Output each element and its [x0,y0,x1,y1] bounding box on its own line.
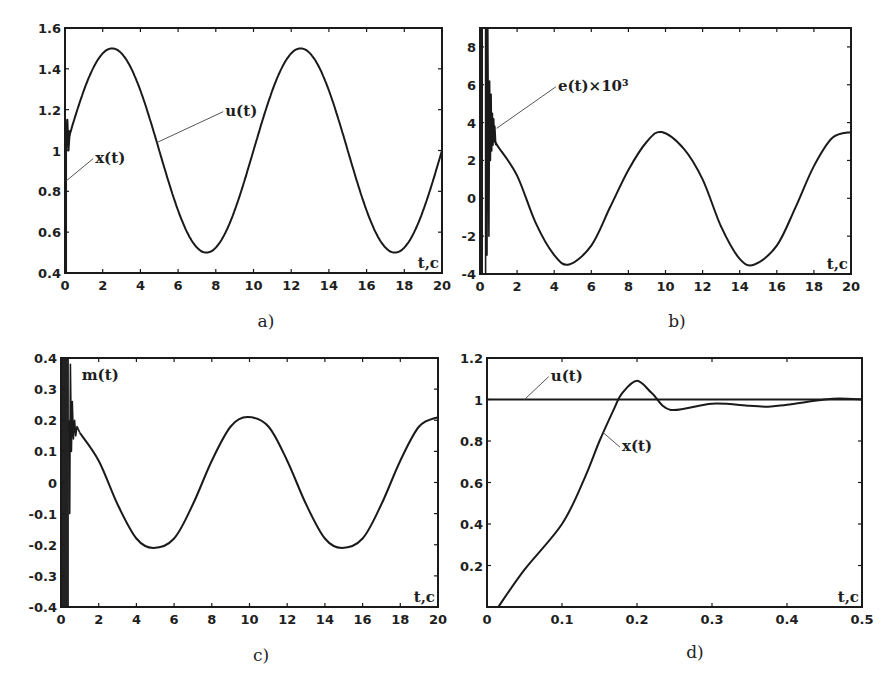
x-tick-label: 16 [768,279,786,294]
x-tick-label: 4 [132,612,141,627]
chart-c-svg: 02468101214161820-0.4-0.3-0.2-0.100.10.2… [0,340,447,686]
series-m-line [80,417,438,548]
annotation-label: e(t)×10³ [558,77,629,95]
x-tick-label: 20 [429,612,447,627]
y-tick-label: 1.2 [460,351,483,366]
x-tick-label: 14 [320,278,338,293]
chart-panel-a: 024681012141618200.40.60.811.21.41.6t,cu… [0,0,447,340]
plot-area [61,358,438,607]
x-tick-label: 4 [550,279,559,294]
y-tick-label: -0.1 [29,507,57,522]
x-tick-label: 2 [98,278,107,293]
x-tick-label: 2 [513,279,522,294]
plot-area [487,381,862,607]
x-tick-label: 10 [244,278,262,293]
y-tick-label: 1 [474,393,483,408]
y-tick-label: 0.4 [34,351,57,366]
chart-a-svg: 024681012141618200.40.60.811.21.41.6t,cu… [0,0,447,340]
x-tick-label: 6 [174,278,183,293]
x-tick-label: 10 [240,612,258,627]
chart-panel-c: 02468101214161820-0.4-0.3-0.2-0.100.10.2… [0,340,447,686]
x-tick-label: 12 [278,612,296,627]
annotation-label: u(t) [225,102,257,120]
x-tick-label: 0.3 [700,612,723,627]
x-tick-label: 0.4 [775,612,798,627]
x-tick-label: 10 [656,279,674,294]
x-tick-label: 8 [207,612,216,627]
caption-a: a) [246,311,286,331]
y-tick-label: 0.8 [460,434,483,449]
series-e-transient [481,28,496,274]
x-axis-label: t,c [838,588,859,606]
annotation-leader-line [66,159,93,182]
series-x-transient [66,120,70,273]
annotation-label: x(t) [95,149,125,167]
series-m-transient [69,364,80,513]
x-tick-label: 6 [170,612,179,627]
chart-b-svg: 02468101214161820-4-202468t,ce(t)×10³ [447,0,895,340]
x-tick-label: 0.1 [550,612,573,627]
y-tick-label: 8 [467,40,476,55]
annotation-label: x(t) [622,437,652,455]
y-tick-label: 0.6 [460,476,483,491]
annotation-label: u(t) [551,367,583,385]
y-tick-label: 6 [467,78,476,93]
x-tick-label: 8 [211,278,220,293]
y-tick-label: -0.3 [29,569,57,584]
x-tick-label: 0 [482,612,491,627]
y-tick-label: 0.4 [460,517,483,532]
y-tick-label: 0 [48,476,57,491]
x-axis-label: t,c [414,588,435,606]
y-tick-label: -0.4 [29,600,57,615]
y-tick-label: 0.3 [34,382,57,397]
x-tick-label: 12 [282,278,300,293]
axes-box [61,358,438,607]
annotation-label: m(t) [82,366,119,384]
x-tick-label: 4 [136,278,145,293]
y-tick-label: 0.6 [38,225,61,240]
y-tick-label: 0.4 [38,266,61,281]
x-tick-label: 18 [805,279,823,294]
x-tick-label: 20 [842,279,860,294]
series-x-response-line [498,381,862,607]
x-tick-label: 0.5 [850,612,873,627]
series-e-line [495,132,851,266]
x-tick-label: 18 [391,612,409,627]
x-tick-label: 12 [694,279,712,294]
y-tick-label: 0.2 [34,413,57,428]
x-tick-label: 0 [56,612,65,627]
chart-panel-d: 00.10.20.30.40.50.20.40.60.811.2t,cu(t)x… [447,340,895,686]
axes-box [487,358,862,607]
x-tick-label: 18 [395,278,413,293]
annotation-leader-line [157,112,223,143]
y-tick-label: 4 [467,116,476,131]
caption-c: c) [241,645,281,665]
y-tick-label: 1 [52,144,61,159]
x-tick-label: 2 [94,612,103,627]
x-tick-label: 16 [354,612,372,627]
caption-b: b) [657,311,697,331]
x-tick-label: 0 [60,278,69,293]
x-axis-label: t,c [418,254,439,272]
x-axis-label: t,c [827,255,848,273]
annotation-leader-line [603,433,620,447]
x-tick-label: 8 [624,279,633,294]
x-tick-label: 0.2 [625,612,648,627]
y-tick-label: 0.1 [34,444,57,459]
y-tick-label: 2 [467,153,476,168]
chart-panel-b: 02468101214161820-4-202468t,ce(t)×10³ b) [447,0,895,340]
caption-d: d) [675,642,715,662]
y-tick-label: 1.2 [38,103,61,118]
y-tick-label: -2 [462,229,476,244]
y-tick-label: -4 [462,267,476,282]
x-tick-label: 0 [475,279,484,294]
y-tick-label: 0.8 [38,184,61,199]
annotation-leader-line [525,377,549,400]
x-tick-label: 6 [587,279,596,294]
x-tick-label: 14 [731,279,749,294]
x-tick-label: 14 [316,612,334,627]
plot-area [481,28,851,274]
y-tick-label: -0.2 [29,538,57,553]
x-tick-label: 16 [358,278,376,293]
axes-box [480,28,851,274]
